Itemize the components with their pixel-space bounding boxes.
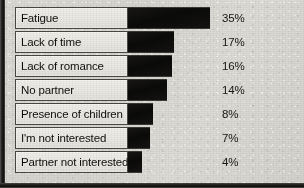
value-label: 7%: [222, 132, 238, 144]
category-label-box: No partner: [15, 79, 128, 101]
value-label: 14%: [222, 84, 245, 96]
table-row: Lack of romance 16%: [15, 55, 290, 77]
frame-left-border: [0, 0, 5, 188]
category-label-box: Fatigue: [15, 7, 128, 29]
value-bar: [128, 55, 172, 77]
value-bar: [128, 127, 150, 149]
table-row: Partner not interested 4%: [15, 151, 290, 173]
frame-bottom-border: [0, 183, 304, 188]
chart-rows-container: Fatigue 35% Lack of time 17% Lack of rom…: [15, 7, 290, 175]
category-label: Fatigue: [21, 12, 58, 24]
table-row: Presence of children 8%: [15, 103, 290, 125]
horizontal-bar-chart: Fatigue 35% Lack of time 17% Lack of rom…: [0, 0, 304, 188]
category-label: Presence of children: [21, 108, 123, 120]
table-row: Fatigue 35%: [15, 7, 290, 29]
value-bar: [128, 31, 174, 53]
category-label: I'm not interested: [21, 132, 106, 144]
value-label: 16%: [222, 60, 245, 72]
value-label: 8%: [222, 108, 238, 120]
category-label-box: Lack of time: [15, 31, 128, 53]
category-label: Partner not interested: [21, 156, 128, 168]
value-bar: [128, 151, 142, 173]
category-label-box: I'm not interested: [15, 127, 128, 149]
value-label: 4%: [222, 156, 238, 168]
category-label-box: Partner not interested: [15, 151, 128, 173]
value-bar: [128, 103, 153, 125]
category-label: No partner: [21, 84, 74, 96]
category-label: Lack of romance: [21, 60, 104, 72]
category-label-box: Lack of romance: [15, 55, 128, 77]
value-label: 35%: [222, 12, 245, 24]
table-row: No partner 14%: [15, 79, 290, 101]
value-bar: [128, 7, 210, 29]
value-label: 17%: [222, 36, 245, 48]
table-row: I'm not interested 7%: [15, 127, 290, 149]
category-label-box: Presence of children: [15, 103, 128, 125]
value-bar: [128, 79, 167, 101]
category-label: Lack of time: [21, 36, 81, 48]
table-row: Lack of time 17%: [15, 31, 290, 53]
